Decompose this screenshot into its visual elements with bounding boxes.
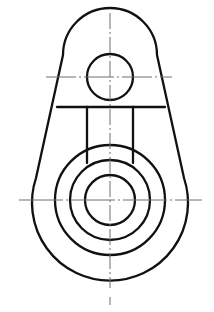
drawing-canvas	[0, 0, 214, 312]
part-drawing	[0, 0, 214, 312]
